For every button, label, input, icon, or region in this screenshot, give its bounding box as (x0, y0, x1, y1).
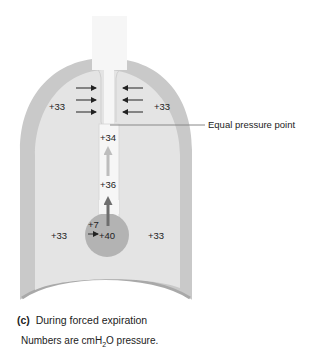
lung-pressure-diagram (0, 0, 318, 352)
pressure-label-recoil: +7 (88, 220, 99, 230)
pressure-label-airway-mid: +36 (100, 180, 116, 190)
pressure-label-lower-left: +33 (51, 231, 67, 241)
compressed-airway (104, 66, 114, 126)
panel-letter: (c) (17, 314, 30, 326)
panel-caption: (c) During forced expiration (17, 314, 147, 326)
trachea (92, 16, 127, 68)
pressure-label-lower-right: +33 (148, 231, 164, 241)
pressure-label-upper-left: +33 (49, 102, 65, 112)
panel-title: During forced expiration (36, 314, 147, 326)
pressure-label-airway-upper: +34 (100, 133, 116, 143)
units-note: Numbers are cmH2O pressure. (21, 335, 158, 348)
pressure-label-alveolus: +40 (99, 231, 115, 241)
equal-pressure-point-label: Equal pressure point (208, 120, 295, 130)
pressure-label-upper-right: +33 (154, 102, 170, 112)
